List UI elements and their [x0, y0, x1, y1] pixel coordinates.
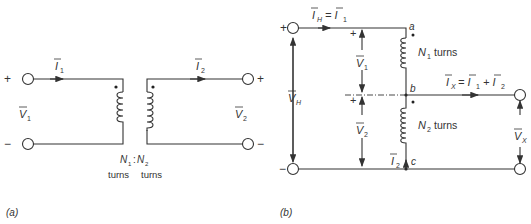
- label-N1-turns: N 1 turns: [418, 46, 457, 60]
- svg-text:turns: turns: [141, 169, 162, 180]
- label-V2: V 2: [235, 107, 247, 122]
- svg-text::: :: [133, 154, 136, 165]
- primary-bottom-wire: [34, 126, 124, 144]
- label-I2: I 2: [195, 59, 205, 74]
- polarity-dot-N1: [412, 34, 415, 37]
- svg-text:N: N: [418, 119, 426, 131]
- svg-text:1: 1: [343, 16, 347, 23]
- caption-a: (a): [6, 207, 18, 218]
- minus-H: −: [279, 162, 286, 176]
- secondary-top-wire: [147, 79, 243, 92]
- label-N2-turns: N 2 turns: [418, 119, 457, 133]
- node-b: b: [410, 83, 416, 94]
- minus-left: −: [4, 137, 11, 151]
- secondary-bottom-wire: [147, 130, 243, 144]
- svg-text:I: I: [55, 60, 58, 72]
- caption-b: (b): [280, 207, 292, 218]
- svg-text:1: 1: [476, 83, 480, 90]
- svg-text:I: I: [196, 60, 199, 72]
- node-a: a: [409, 21, 415, 32]
- svg-text:turns: turns: [108, 169, 129, 180]
- svg-text:turns: turns: [434, 119, 457, 131]
- svg-text:1: 1: [60, 67, 64, 74]
- svg-text:= I: = I: [458, 76, 471, 88]
- label-V1: V 1: [19, 107, 31, 122]
- terminal-primary-plus: [23, 74, 34, 85]
- terminal-secondary-minus: [243, 139, 254, 150]
- svg-text:2: 2: [364, 131, 368, 138]
- svg-text:2: 2: [201, 67, 205, 74]
- svg-text:1: 1: [128, 161, 132, 167]
- svg-text:2: 2: [427, 126, 431, 133]
- svg-text:1: 1: [364, 64, 368, 71]
- svg-text:turns: turns: [434, 46, 457, 58]
- terminal-secondary-plus: [243, 74, 254, 85]
- svg-text:+ I: + I: [483, 76, 496, 88]
- label-V2-b: V 2: [356, 123, 368, 138]
- figure-b: + − + + I H = I 1 a b c N 1 turns N 2 tu…: [279, 8, 527, 218]
- label-I1: I 1: [54, 59, 64, 74]
- svg-text:1: 1: [27, 115, 31, 122]
- turns-ratio-label: N 1 : N 2 turns turns: [108, 154, 162, 180]
- coil-N2: [401, 95, 406, 169]
- figure-a: + − + − I 1 I 2 V 1 V 2 N 1 : N 2: [4, 59, 264, 218]
- svg-text:N: N: [418, 46, 426, 58]
- label-IH-equation: I H = I 1: [311, 8, 347, 23]
- svg-text:2: 2: [145, 161, 149, 167]
- svg-text:I: I: [391, 155, 394, 167]
- primary-polarity-dot: [114, 85, 117, 88]
- primary-coil: [117, 92, 123, 126]
- svg-text:I: I: [446, 76, 449, 88]
- node-c: c: [411, 156, 416, 167]
- label-VX: V X: [514, 129, 527, 144]
- svg-text:2: 2: [501, 83, 505, 90]
- coil-N1: [401, 38, 406, 95]
- primary-top-wire: [34, 79, 124, 92]
- svg-text:X: X: [521, 137, 527, 144]
- terminal-X-minus: [515, 164, 526, 175]
- svg-text:I: I: [312, 9, 315, 21]
- secondary-polarity-dot: [151, 85, 154, 88]
- svg-text:2: 2: [396, 162, 400, 169]
- plus-H: +: [280, 21, 287, 35]
- plus-left: +: [4, 72, 11, 86]
- terminal-primary-minus: [23, 139, 34, 150]
- svg-text:2: 2: [243, 115, 247, 122]
- svg-text:= I: = I: [325, 9, 338, 21]
- svg-text:H: H: [317, 16, 323, 23]
- plus-V1: +: [350, 27, 356, 39]
- minus-right: −: [257, 137, 264, 151]
- secondary-coil: [147, 92, 153, 130]
- label-VH: V H: [286, 89, 302, 107]
- label-IX-equation: I X = I 1 + I 2: [445, 75, 505, 90]
- svg-text:N: N: [137, 154, 145, 165]
- svg-text:1: 1: [427, 53, 431, 60]
- terminal-H-plus: [288, 23, 299, 34]
- plus-V2: +: [350, 94, 356, 106]
- plus-right: +: [257, 72, 264, 86]
- label-V1-b: V 1: [356, 56, 368, 71]
- svg-text:X: X: [450, 83, 456, 90]
- label-I2-b: I 2: [390, 154, 400, 169]
- svg-text:N: N: [120, 154, 128, 165]
- terminal-X-plus: [515, 90, 526, 101]
- terminal-H-minus: [288, 164, 299, 175]
- polarity-dot-N2: [412, 101, 415, 104]
